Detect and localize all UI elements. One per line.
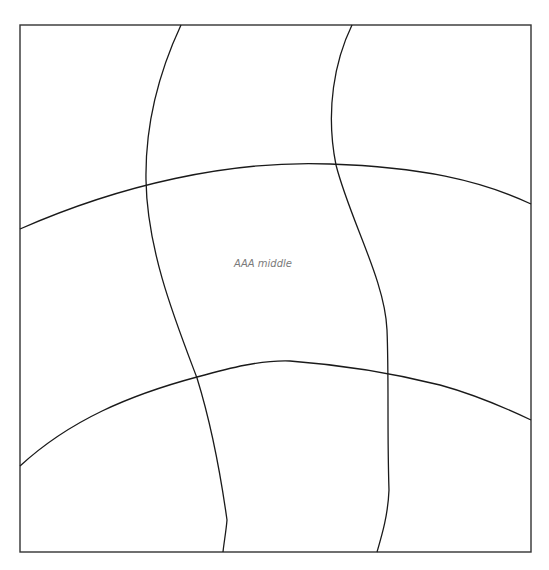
map-frame	[20, 25, 531, 552]
map-label-middle: AAA middle	[233, 258, 292, 269]
map-canvas[interactable]: AAA middle	[0, 0, 549, 570]
